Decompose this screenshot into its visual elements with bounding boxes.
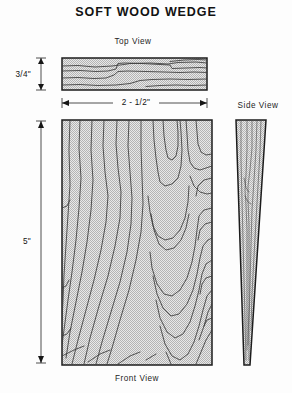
thickness-arrow-bottom bbox=[38, 84, 44, 90]
width-arrow-left bbox=[62, 100, 69, 106]
side-view-wedge bbox=[236, 120, 266, 365]
drawing-title: SOFT WOOD WEDGE bbox=[75, 5, 216, 19]
technical-drawing: SOFT WOOD WEDGE Top View 3/4" bbox=[0, 0, 292, 393]
drawing-sheet: SOFT WOOD WEDGE Top View 3/4" bbox=[0, 0, 292, 393]
dimension-thickness: 3/4" bbox=[16, 58, 47, 90]
length-arrow-top bbox=[38, 121, 44, 128]
top-view-board bbox=[62, 58, 207, 90]
width-dim-label: 2 - 1/2" bbox=[122, 98, 151, 107]
width-arrow-right bbox=[200, 100, 207, 106]
side-view-label: Side View bbox=[238, 101, 279, 110]
dimension-length: 5" bbox=[23, 121, 46, 363]
top-view-label: Top View bbox=[114, 37, 151, 46]
front-view-board bbox=[62, 120, 212, 365]
dimension-width: 2 - 1/2" bbox=[62, 96, 207, 108]
length-arrow-bottom bbox=[38, 356, 44, 363]
thickness-dim-label: 3/4" bbox=[16, 70, 32, 79]
thickness-arrow-top bbox=[38, 58, 44, 64]
front-view-label: Front View bbox=[115, 374, 159, 383]
length-dim-label: 5" bbox=[23, 237, 31, 246]
